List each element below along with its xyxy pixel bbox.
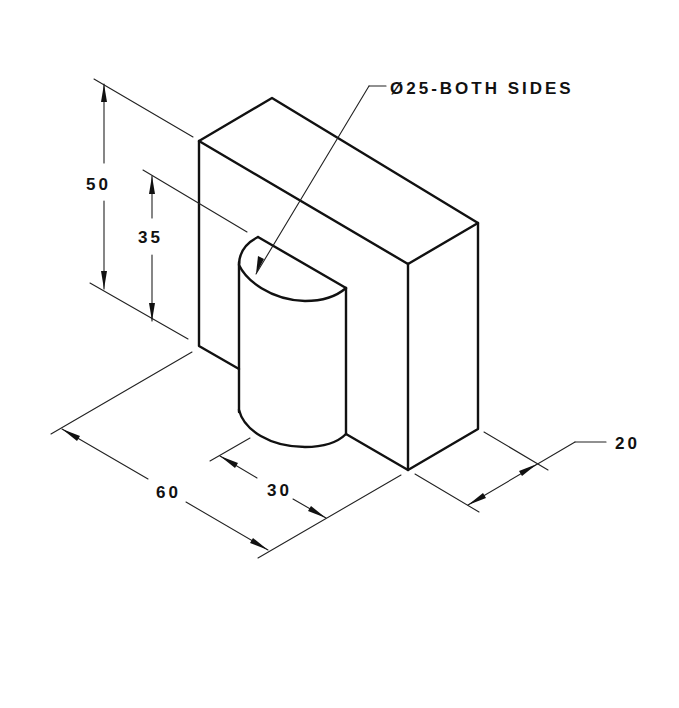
dimension-35-label: 35 (138, 228, 163, 247)
dimension-50-label: 50 (86, 175, 111, 194)
part-outline (199, 98, 478, 470)
slab-top-face (199, 98, 478, 264)
slab-left-edge (199, 141, 239, 369)
dimension-60-label: 60 (156, 483, 181, 502)
isometric-part-drawing: 50 35 60 30 20 (0, 0, 679, 708)
boss-top-arc (239, 237, 346, 301)
dimension-20: 20 (415, 432, 640, 512)
dimension-30: 30 (210, 438, 326, 518)
slab-right-face (408, 223, 478, 470)
dimension-20-label: 20 (615, 434, 640, 453)
hole-callout: Ø25-BOTH SIDES (256, 79, 574, 274)
dimension-35: 35 (138, 170, 247, 321)
boss-top-edge (258, 237, 346, 288)
boss-bottom-arc (239, 410, 346, 447)
hole-note-label: Ø25-BOTH SIDES (390, 79, 574, 98)
dimension-50: 50 (86, 79, 193, 339)
slab-front-right-edge (346, 264, 408, 470)
dimension-30-label: 30 (267, 481, 292, 500)
dimension-60: 60 (51, 352, 401, 558)
